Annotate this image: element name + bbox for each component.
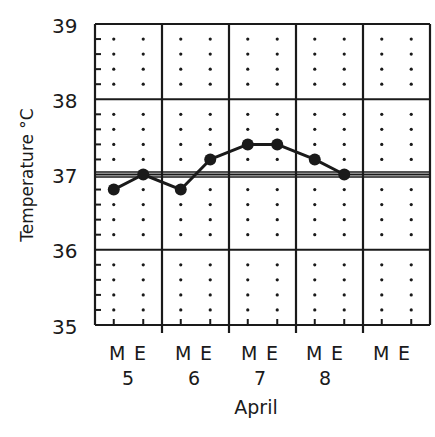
y-tick-39: 39	[52, 14, 77, 38]
x-label-8-m: M	[306, 342, 322, 364]
y-axis-label: Temperature °C	[17, 108, 37, 242]
x-label-6-e: E	[200, 342, 212, 364]
data-point	[338, 169, 350, 181]
x-period-labels: M E M E M E M E M E	[109, 342, 410, 364]
x-label-7-e: E	[266, 342, 278, 364]
x-label-5-e: E	[134, 342, 146, 364]
x-label-5-m: M	[109, 342, 125, 364]
day-label-7: 7	[254, 367, 266, 389]
data-point	[309, 153, 321, 165]
data-point	[175, 184, 187, 196]
day-label-5: 5	[122, 367, 134, 389]
y-tick-38: 38	[52, 89, 77, 113]
y-tick-37: 37	[52, 164, 77, 188]
data-point	[271, 138, 283, 150]
x-label-9-m: M	[373, 342, 389, 364]
day-label-6: 6	[188, 367, 200, 389]
data-point	[204, 153, 216, 165]
x-axis-label: April	[234, 396, 277, 418]
x-label-7-m: M	[241, 342, 257, 364]
x-label-6-m: M	[175, 342, 191, 364]
data-point	[242, 138, 254, 150]
data-point	[108, 184, 120, 196]
data-point	[137, 169, 149, 181]
day-label-8: 8	[319, 367, 331, 389]
x-label-9-e: E	[398, 342, 410, 364]
y-tick-35: 35	[52, 315, 77, 339]
y-tick-36: 36	[52, 239, 77, 263]
temperature-chart: 39 38 37 36 35 Temperature °C M E M E M …	[0, 0, 435, 437]
x-label-8-e: E	[331, 342, 343, 364]
